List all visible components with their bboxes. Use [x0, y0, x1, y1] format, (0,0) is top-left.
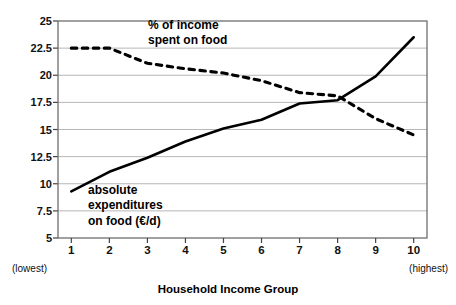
x-axis-tick-label: 1 — [68, 244, 74, 256]
annotation-percent-income-line1: % of income — [148, 18, 227, 33]
annotation-percent-income-line2: spent on food — [148, 33, 227, 48]
x-axis-tick-label: 6 — [258, 244, 264, 256]
x-axis-tick-label: 4 — [182, 244, 188, 256]
x-axis-tick-label: 2 — [106, 244, 112, 256]
x-axis-tick-label: 9 — [372, 244, 378, 256]
chart-container: 57.51012.51517.52022.525 12345678910 (lo… — [0, 0, 456, 305]
x-axis-note-lowest: (lowest) — [12, 263, 47, 274]
x-axis-tick-label: 7 — [296, 244, 302, 256]
x-axis-title: Household Income Group — [0, 283, 456, 295]
x-axis-tick-label: 10 — [407, 244, 420, 256]
x-axis-tick-label: 5 — [220, 244, 226, 256]
plot-area-svg — [0, 0, 456, 305]
x-axis-note-highest: (highest) — [409, 263, 448, 274]
series-line-absolute-expenditure — [71, 37, 413, 191]
annotation-absolute-expenditure: absolute expenditures on food (€/d) — [88, 183, 163, 229]
annotation-absolute-expenditure-line3: on food (€/d) — [88, 214, 163, 229]
annotation-percent-income: % of income spent on food — [148, 18, 227, 49]
x-axis-tick-label: 3 — [144, 244, 150, 256]
x-axis-tick-label: 8 — [334, 244, 340, 256]
annotation-absolute-expenditure-line2: expenditures — [88, 198, 163, 213]
annotation-absolute-expenditure-line1: absolute — [88, 183, 163, 198]
series-line-percent-income — [71, 48, 413, 135]
x-axis-ticks — [71, 238, 413, 243]
